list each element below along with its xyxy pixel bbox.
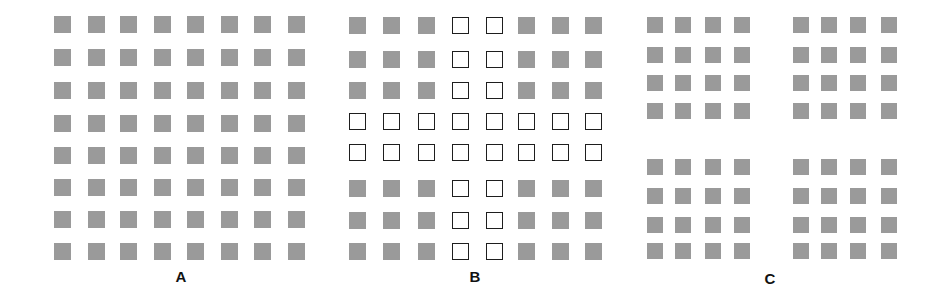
open-square bbox=[518, 144, 535, 161]
filled-square bbox=[850, 243, 866, 259]
filled-square bbox=[881, 217, 897, 233]
filled-square bbox=[518, 17, 535, 34]
filled-square bbox=[54, 179, 71, 196]
open-square bbox=[518, 113, 535, 130]
filled-square bbox=[120, 115, 137, 132]
filled-square bbox=[585, 17, 602, 34]
filled-square bbox=[88, 49, 105, 66]
filled-square bbox=[221, 243, 238, 260]
filled-square bbox=[54, 211, 71, 228]
filled-square bbox=[221, 16, 238, 33]
filled-square bbox=[54, 115, 71, 132]
filled-square bbox=[793, 103, 809, 119]
filled-square bbox=[383, 82, 400, 99]
open-square bbox=[486, 82, 503, 99]
filled-square bbox=[821, 188, 837, 204]
filled-square bbox=[254, 115, 271, 132]
filled-square bbox=[850, 47, 866, 63]
filled-square bbox=[349, 243, 366, 260]
filled-square bbox=[154, 16, 171, 33]
filled-square bbox=[734, 103, 750, 119]
filled-square bbox=[120, 211, 137, 228]
filled-square bbox=[552, 82, 569, 99]
filled-square bbox=[349, 180, 366, 197]
filled-square bbox=[675, 217, 691, 233]
filled-square bbox=[850, 159, 866, 175]
filled-square bbox=[288, 16, 305, 33]
filled-square bbox=[518, 82, 535, 99]
filled-square bbox=[552, 180, 569, 197]
open-square bbox=[486, 113, 503, 130]
open-square bbox=[349, 113, 366, 130]
filled-square bbox=[552, 17, 569, 34]
filled-square bbox=[705, 17, 721, 33]
filled-square bbox=[585, 51, 602, 68]
filled-square bbox=[881, 243, 897, 259]
panel-label: B bbox=[470, 269, 481, 284]
filled-square bbox=[850, 75, 866, 91]
filled-square bbox=[254, 147, 271, 164]
filled-square bbox=[585, 243, 602, 260]
filled-square bbox=[187, 211, 204, 228]
filled-square bbox=[88, 82, 105, 99]
open-square bbox=[452, 212, 469, 229]
filled-square bbox=[518, 180, 535, 197]
filled-square bbox=[383, 180, 400, 197]
filled-square bbox=[705, 103, 721, 119]
filled-square bbox=[552, 51, 569, 68]
filled-square bbox=[705, 188, 721, 204]
filled-square bbox=[793, 188, 809, 204]
filled-square bbox=[288, 243, 305, 260]
filled-square bbox=[383, 17, 400, 34]
filled-square bbox=[221, 179, 238, 196]
open-square bbox=[486, 17, 503, 34]
filled-square bbox=[154, 49, 171, 66]
filled-square bbox=[821, 159, 837, 175]
filled-square bbox=[647, 75, 663, 91]
open-square bbox=[585, 113, 602, 130]
filled-square bbox=[187, 243, 204, 260]
filled-square bbox=[881, 75, 897, 91]
open-square bbox=[452, 113, 469, 130]
open-square bbox=[552, 113, 569, 130]
filled-square bbox=[675, 188, 691, 204]
filled-square bbox=[821, 217, 837, 233]
filled-square bbox=[187, 82, 204, 99]
open-square bbox=[486, 51, 503, 68]
filled-square bbox=[418, 82, 435, 99]
filled-square bbox=[881, 103, 897, 119]
filled-square bbox=[88, 243, 105, 260]
filled-square bbox=[221, 115, 238, 132]
filled-square bbox=[705, 243, 721, 259]
filled-square bbox=[187, 49, 204, 66]
filled-square bbox=[675, 47, 691, 63]
open-square bbox=[452, 17, 469, 34]
filled-square bbox=[221, 49, 238, 66]
filled-square bbox=[734, 159, 750, 175]
filled-square bbox=[881, 159, 897, 175]
filled-square bbox=[88, 147, 105, 164]
filled-square bbox=[734, 75, 750, 91]
filled-square bbox=[705, 217, 721, 233]
filled-square bbox=[288, 211, 305, 228]
open-square bbox=[452, 243, 469, 260]
filled-square bbox=[187, 115, 204, 132]
filled-square bbox=[518, 212, 535, 229]
filled-square bbox=[734, 217, 750, 233]
open-square bbox=[486, 212, 503, 229]
open-square bbox=[585, 144, 602, 161]
filled-square bbox=[850, 103, 866, 119]
filled-square bbox=[675, 17, 691, 33]
filled-square bbox=[154, 179, 171, 196]
filled-square bbox=[793, 17, 809, 33]
filled-square bbox=[120, 49, 137, 66]
open-square bbox=[418, 113, 435, 130]
filled-square bbox=[675, 103, 691, 119]
filled-square bbox=[120, 16, 137, 33]
filled-square bbox=[647, 217, 663, 233]
filled-square bbox=[881, 188, 897, 204]
filled-square bbox=[383, 243, 400, 260]
filled-square bbox=[187, 16, 204, 33]
filled-square bbox=[647, 17, 663, 33]
filled-square bbox=[349, 51, 366, 68]
